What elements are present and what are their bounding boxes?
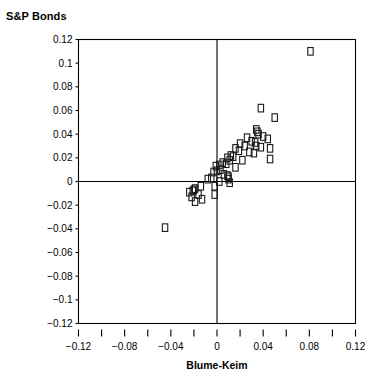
y-tick-label: −0.1 <box>53 294 73 305</box>
x-tick-label: −0.04 <box>158 341 184 352</box>
data-point <box>240 156 245 164</box>
x-axis-title: Blume-Keim <box>186 359 247 371</box>
y-tick-label: 0.04 <box>53 129 73 140</box>
y-tick-label: −0.08 <box>47 271 73 282</box>
scatter-plot: −0.12−0.08−0.0400.040.080.12 0.120.10.08… <box>0 0 381 390</box>
y-tick-label: 0 <box>67 176 73 187</box>
data-point <box>199 195 204 203</box>
y-tick-label: −0.12 <box>47 318 73 329</box>
y-tick-label: −0.02 <box>47 200 73 211</box>
data-point <box>308 48 313 56</box>
y-tick-label: 0.08 <box>53 81 73 92</box>
x-tick-label: −0.08 <box>112 341 138 352</box>
y-tick-label: 0.1 <box>59 58 73 69</box>
data-point <box>272 114 277 122</box>
x-tick-label: 0.12 <box>346 341 366 352</box>
data-points <box>162 48 313 232</box>
x-tick-label: 0.08 <box>300 341 320 352</box>
y-tick-label: −0.04 <box>47 223 73 234</box>
data-point <box>192 198 197 206</box>
data-point <box>233 164 238 172</box>
data-point <box>236 147 241 155</box>
y-tick-label: 0.06 <box>53 105 73 116</box>
x-tick-label: 0.04 <box>253 341 273 352</box>
y-tick-label: 0.12 <box>53 34 73 45</box>
x-axis-ticks <box>79 330 356 337</box>
data-point <box>198 182 203 190</box>
x-tick-label: 0 <box>214 341 220 352</box>
x-tick-label: −0.12 <box>66 341 92 352</box>
y-tick-label: −0.06 <box>47 247 73 258</box>
plot-svg: −0.12−0.08−0.0400.040.080.12 0.120.10.08… <box>0 0 381 390</box>
data-point <box>267 155 272 163</box>
data-point <box>162 224 167 232</box>
y-tick-label: 0.02 <box>53 152 73 163</box>
y-axis-tick-labels: 0.120.10.080.060.040.020−0.02−0.04−0.06−… <box>47 34 73 329</box>
data-point <box>258 104 263 112</box>
x-axis-tick-labels: −0.12−0.08−0.0400.040.080.12 <box>66 341 366 352</box>
data-point <box>267 145 272 153</box>
